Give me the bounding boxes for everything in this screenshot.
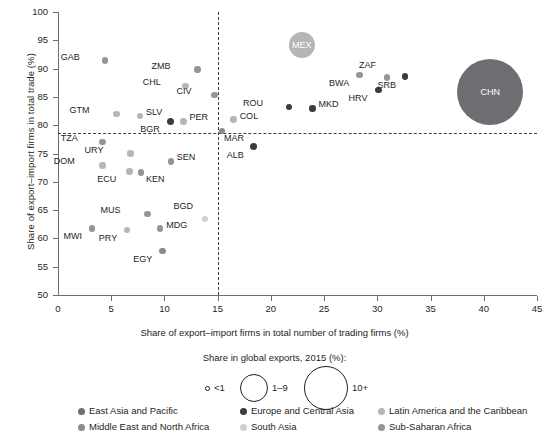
data-point-ecu[interactable] [126, 168, 133, 175]
x-tick-label-20: 20 [256, 303, 286, 314]
data-point-label-ecu: ECU [97, 175, 116, 184]
data-point-label-mwi: MWI [64, 232, 83, 241]
x-tick-45 [537, 296, 538, 301]
reference-line-vertical-15 [218, 12, 219, 295]
data-point-bwa[interactable] [356, 72, 363, 79]
data-point-label-tza: TZA [61, 134, 78, 143]
y-tick-75 [53, 154, 59, 155]
y-tick-100 [53, 12, 59, 13]
data-point-label-ken: KEN [146, 175, 165, 184]
data-point-label-dom: DOM [54, 157, 75, 166]
data-point-label-mus: MUS [100, 206, 120, 215]
legend-swatch-icon [240, 424, 247, 431]
size-legend-circle-2 [304, 366, 348, 410]
legend-swatch-icon [378, 424, 385, 431]
x-tick-label-10: 10 [149, 303, 179, 314]
data-point-gtm[interactable] [113, 111, 120, 118]
x-tick-label-0: 0 [43, 303, 73, 314]
data-point-per[interactable] [180, 118, 187, 125]
legend-item-label: South Asia [251, 422, 296, 432]
legend-item-east-asia-and-pacific[interactable]: East Asia and Pacific [78, 406, 178, 416]
legend-item-label: Latin America and the Caribbean [389, 406, 527, 416]
x-axis-line [58, 295, 537, 296]
data-point-label-zaf: ZAF [359, 61, 376, 70]
data-point-label-civ: CIV [176, 87, 191, 96]
x-tick-label-40: 40 [469, 303, 499, 314]
reference-line-horizontal-80 [58, 133, 537, 134]
data-point-label-bwa: BWA [329, 79, 349, 88]
data-point-label-gtm: GTM [70, 106, 90, 115]
legend-item-label: East Asia and Pacific [89, 406, 178, 416]
legend-item-label: Sub-Saharan Africa [389, 422, 471, 432]
x-tick-40 [484, 296, 485, 301]
legend-item-south-asia[interactable]: South Asia [240, 422, 296, 432]
legend-item-sub-saharan-africa[interactable]: Sub-Saharan Africa [378, 422, 471, 432]
size-legend-label-1: 1–9 [272, 383, 288, 392]
legend-swatch-icon [78, 424, 85, 431]
size-legend-label-2: 10+ [352, 383, 368, 392]
x-tick-5 [111, 296, 112, 301]
data-point-label-chl: CHL [143, 78, 161, 87]
data-point-mwi[interactable] [89, 225, 96, 232]
data-point-label-col: COL [240, 112, 259, 121]
size-legend-label-0: <1 [214, 383, 225, 392]
legend-item-label: Middle East and North Africa [89, 422, 209, 432]
data-point-egy[interactable] [159, 248, 166, 255]
data-point-label-slv: SLV [146, 108, 162, 117]
data-point-mkd[interactable] [309, 105, 316, 112]
y-tick-55 [53, 267, 59, 268]
y-tick-85 [53, 97, 59, 98]
data-point-label-rou: ROU [243, 99, 263, 108]
data-point-label-ury: URY [85, 146, 104, 155]
x-tick-label-5: 5 [96, 303, 126, 314]
legend-item-europe-and-central-asia[interactable]: Europe and Central Asia [240, 406, 354, 416]
data-point-label-hrv: HRV [349, 94, 368, 103]
data-point-ury[interactable] [127, 150, 134, 157]
data-point-mus[interactable] [144, 211, 151, 218]
x-tick-20 [271, 296, 272, 301]
y-axis-title: Share of export–import firms in total tr… [25, 12, 36, 292]
chart-root: 50556065707580859095100 0510152025303540… [0, 0, 549, 442]
data-point-dom[interactable] [99, 162, 106, 169]
x-tick-label-30: 30 [362, 303, 392, 314]
data-point-hrv[interactable] [375, 87, 382, 94]
legend-item-middle-east-and-north-africa[interactable]: Middle East and North Africa [78, 422, 209, 432]
y-tick-50 [53, 295, 59, 296]
data-point-label-mdg: MDG [166, 221, 187, 230]
legend-item-label: Europe and Central Asia [251, 406, 354, 416]
data-point-label-gab: GAB [61, 53, 80, 62]
data-point-label-alb: ALB [227, 151, 244, 160]
data-point-label-sen: SEN [177, 153, 196, 162]
x-tick-35 [431, 296, 432, 301]
size-legend-circle-0 [205, 386, 210, 391]
legend-swatch-icon [78, 408, 85, 415]
legend-item-latin-america-and-the-caribbean[interactable]: Latin America and the Caribbean [378, 406, 527, 416]
size-legend: <11–910+ [0, 366, 549, 406]
y-tick-80 [53, 125, 59, 126]
data-point-sen[interactable] [168, 158, 175, 165]
data-point-label-chn: CHN [457, 88, 523, 97]
data-point-label-mkd: MKD [318, 100, 338, 109]
y-tick-65 [53, 210, 59, 211]
data-point-zmb[interactable] [194, 66, 201, 73]
x-tick-10 [164, 296, 165, 301]
size-legend-title: Share in global exports, 2015 (%): [0, 352, 549, 363]
data-point-label-per: PER [190, 113, 209, 122]
y-tick-60 [53, 238, 59, 239]
data-point-srb[interactable] [402, 73, 409, 80]
x-tick-label-35: 35 [416, 303, 446, 314]
data-point-label-zmb: ZMB [151, 62, 170, 71]
data-point-col[interactable] [230, 116, 237, 123]
legend-swatch-icon [378, 408, 385, 415]
x-axis-title: Share of export–import firms in total nu… [0, 327, 549, 338]
x-tick-15 [218, 296, 219, 301]
legend-swatch-icon [240, 408, 247, 415]
data-point-label-mex: MEX [289, 41, 315, 50]
x-tick-label-25: 25 [309, 303, 339, 314]
y-tick-90 [53, 69, 59, 70]
y-tick-70 [53, 182, 59, 183]
data-point-label-bgr: BGR [140, 125, 160, 134]
y-tick-95 [53, 40, 59, 41]
data-point-gab[interactable] [102, 57, 109, 64]
size-legend-circle-1 [240, 374, 268, 402]
